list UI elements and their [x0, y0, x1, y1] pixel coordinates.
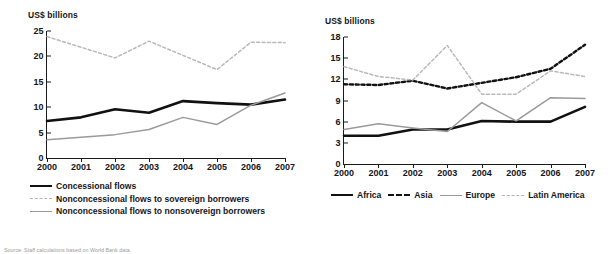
- x-axis-tick-label: 2005: [506, 168, 526, 178]
- x-axis-tick-mark: [516, 164, 517, 168]
- x-axis-tick-mark: [115, 158, 116, 162]
- x-axis-tick-label: 2004: [173, 162, 193, 172]
- y-axis-tick-mark: [47, 56, 51, 57]
- x-axis-tick-label: 2004: [472, 168, 492, 178]
- y-axis-tick-label: 3: [335, 138, 344, 148]
- y-axis-tick-label: 10: [33, 102, 47, 112]
- x-axis-tick-label: 2003: [437, 168, 457, 178]
- y-axis-tick-label: 15: [330, 53, 344, 63]
- legend-swatch-dotted-gray-icon: [502, 195, 524, 196]
- legend-label: Nonconcessional flows to sovereign borro…: [56, 194, 249, 204]
- dual-line-chart-figure: US$ billions 051015202520002001200220032…: [0, 0, 614, 254]
- x-axis-tick-mark: [482, 164, 483, 168]
- x-axis-tick-mark: [217, 158, 218, 162]
- legend-item-africa[interactable]: Africa: [331, 190, 381, 200]
- x-axis-tick-mark: [149, 158, 150, 162]
- plot-area-right: 0369121518200020012002200320042005200620…: [343, 37, 585, 165]
- legend-swatch-solid-gray-icon: [30, 211, 52, 212]
- y-axis-tick-label: 6: [335, 117, 344, 127]
- x-axis-tick-label: 2000: [37, 162, 57, 172]
- series-lines-right: [344, 37, 585, 164]
- x-axis-tick-mark: [585, 164, 586, 168]
- x-axis-tick-mark: [285, 158, 286, 162]
- y-axis-tick-mark: [344, 100, 348, 101]
- legend-label: Europe: [466, 190, 496, 200]
- legend-swatch-solid-black-icon: [331, 194, 353, 196]
- x-axis-tick-label: 2001: [368, 168, 388, 178]
- y-axis-tick-mark: [47, 31, 51, 32]
- legend-item-asia[interactable]: Asia: [388, 190, 432, 200]
- x-axis-tick-mark: [447, 164, 448, 168]
- legend-item-latin-america[interactable]: Latin America: [502, 190, 585, 200]
- legend-item-europe[interactable]: Europe: [440, 190, 496, 200]
- legend-label: Asia: [414, 190, 432, 200]
- y-axis-tick-mark: [344, 58, 348, 59]
- legend-item-nonconcessional-sovereign[interactable]: Nonconcessional flows to sovereign borro…: [30, 194, 265, 204]
- x-axis-tick-label: 2007: [575, 168, 595, 178]
- x-axis-tick-mark: [47, 158, 48, 162]
- y-axis-tick-mark: [344, 79, 348, 80]
- source-note: Source: Staff calculations based on Worl…: [4, 247, 131, 254]
- x-axis-tick-mark: [81, 158, 82, 162]
- y-axis-tick-mark: [344, 37, 348, 38]
- x-axis-tick-mark: [378, 164, 379, 168]
- series-line: [47, 100, 285, 121]
- x-axis-tick-label: 2006: [541, 168, 561, 178]
- legend-swatch-solid-gray-icon: [440, 195, 462, 196]
- x-axis-tick-mark: [344, 164, 345, 168]
- legend-label: Nonconcessional flows to nonsovereign bo…: [56, 206, 265, 216]
- y-axis-tick-mark: [47, 132, 51, 133]
- chart-panel-left: US$ billions 051015202520002001200220032…: [0, 0, 307, 254]
- x-axis-tick-label: 2000: [334, 168, 354, 178]
- legend-swatch-solid-black-icon: [30, 185, 52, 187]
- legend-left: Concessional flows Nonconcessional flows…: [30, 181, 265, 216]
- legend-label: Latin America: [528, 190, 585, 200]
- series-lines-left: [47, 31, 285, 158]
- x-axis-tick-label: 2007: [275, 162, 295, 172]
- x-axis-tick-label: 2002: [105, 162, 125, 172]
- legend-item-nonconcessional-nonsovereign[interactable]: Nonconcessional flows to nonsovereign bo…: [30, 206, 265, 216]
- x-axis-tick-mark: [551, 164, 552, 168]
- x-axis-tick-mark: [413, 164, 414, 168]
- y-axis-tick-mark: [47, 81, 51, 82]
- x-axis-tick-mark: [183, 158, 184, 162]
- y-axis-title-right: US$ billions: [325, 16, 375, 26]
- x-axis-tick-mark: [251, 158, 252, 162]
- y-axis-tick-mark: [344, 142, 348, 143]
- chart-panel-right: US$ billions 036912151820002001200220032…: [307, 0, 614, 254]
- legend-label: Africa: [357, 190, 381, 200]
- x-axis-tick-label: 2001: [71, 162, 91, 172]
- x-axis-tick-label: 2005: [207, 162, 227, 172]
- y-axis-tick-label: 25: [33, 26, 47, 36]
- y-axis-tick-label: 15: [33, 77, 47, 87]
- y-axis-tick-mark: [47, 107, 51, 108]
- x-axis-tick-label: 2006: [241, 162, 261, 172]
- y-axis-title-left: US$ billions: [28, 10, 78, 20]
- x-axis-tick-label: 2002: [403, 168, 423, 178]
- legend-swatch-dotted-gray-icon: [30, 198, 52, 199]
- series-line: [47, 37, 285, 70]
- legend-label: Concessional flows: [56, 181, 136, 191]
- y-axis-tick-label: 12: [330, 74, 344, 84]
- legend-right: Africa Asia Europe Latin America: [331, 190, 585, 200]
- series-line: [344, 107, 585, 136]
- y-axis-tick-label: 5: [38, 128, 47, 138]
- y-axis-tick-label: 20: [33, 51, 47, 61]
- x-axis-tick-label: 2003: [139, 162, 159, 172]
- legend-item-concessional-flows[interactable]: Concessional flows: [30, 181, 265, 191]
- y-axis-tick-mark: [344, 121, 348, 122]
- y-axis-tick-label: 9: [335, 96, 344, 106]
- y-axis-tick-label: 18: [330, 32, 344, 42]
- legend-swatch-dashed-black-icon: [388, 194, 410, 196]
- plot-area-left: 0510152025200020012002200320042005200620…: [46, 31, 285, 159]
- series-line: [344, 45, 585, 89]
